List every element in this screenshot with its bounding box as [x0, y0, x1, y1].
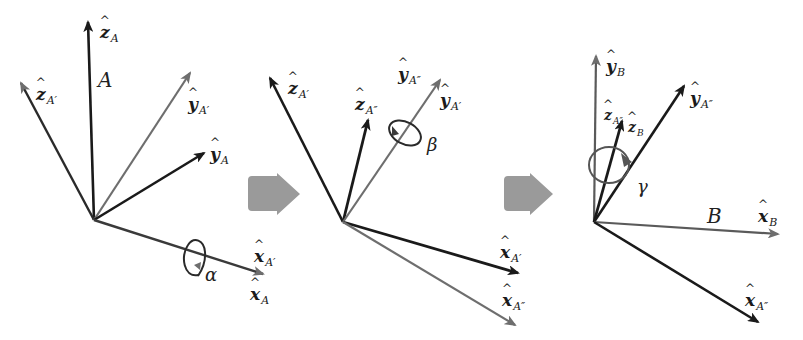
- axis-y-A: [94, 153, 204, 220]
- rotation-diagram: zA A zA′ yA′ yA xA′ xA α zA′ zA″ yA″ yA′…: [0, 0, 803, 340]
- angle-beta: β: [427, 134, 437, 155]
- diagram-canvas: [0, 0, 803, 340]
- axis-z-A: [88, 22, 94, 220]
- label-x-A-double-prime: xA″: [745, 292, 768, 312]
- axis-x-A: [94, 220, 263, 274]
- label-x-A-prime: xA′: [500, 244, 522, 264]
- label-y-B: yB: [606, 58, 625, 78]
- label-y-A-double-prime: yA″: [398, 66, 421, 86]
- label-y-A-prime: yA′: [188, 96, 209, 116]
- step-arrow-1-icon: [248, 173, 300, 215]
- label-z-A: zA: [100, 24, 119, 44]
- axis-x-A-prime: [343, 222, 518, 273]
- label-z-A-prime: zA′: [288, 80, 309, 100]
- label-z-A-double-prime: zA″: [604, 108, 623, 126]
- axis-z-B: [594, 121, 622, 222]
- angle-alpha: α: [205, 264, 217, 285]
- label-y-A-double-prime: yA″: [690, 90, 713, 110]
- axis-y-B: [594, 56, 596, 222]
- axis-x-A-double-prime: [343, 222, 515, 325]
- step-arrow-2-icon: [504, 173, 553, 215]
- angle-gamma: γ: [637, 176, 648, 197]
- axis-y-A-prime: [94, 73, 190, 220]
- label-y-A-prime: yA′: [440, 92, 461, 112]
- label-z-A-double-prime: zA″: [355, 96, 378, 116]
- rotation-loop-alpha-icon: [184, 240, 205, 276]
- axis-x-A-double-prime: [594, 222, 758, 322]
- label-z-A-prime: zA′: [36, 86, 57, 106]
- axis-z-A-double-prime: [343, 120, 368, 222]
- label-x-B: xB: [758, 208, 777, 228]
- frame-name-B: B: [707, 204, 722, 228]
- panel-2: [270, 78, 518, 325]
- label-z-B: zB: [628, 120, 644, 138]
- label-x-A: xA: [250, 286, 269, 306]
- label-x-A-double-prime: xA″: [502, 292, 525, 312]
- label-x-A-prime: xA′: [254, 248, 276, 268]
- axis-x-B: [594, 222, 778, 234]
- axis-z-A-prime: [21, 83, 94, 220]
- label-y-A: yA: [210, 146, 229, 166]
- frame-name-A: A: [98, 68, 112, 92]
